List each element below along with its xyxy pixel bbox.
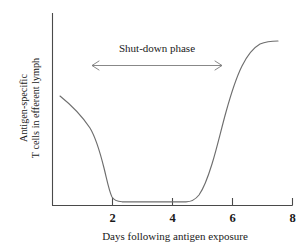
y-axis-label-line1: Antigen-specific — [18, 74, 29, 142]
x-axis-label: Days following antigen exposure — [102, 230, 248, 242]
chart-plot-area: 2 4 6 8 Days following antigen exposure … — [0, 0, 306, 247]
shutdown-phase-label: Shut-down phase — [119, 42, 195, 54]
x-tick-label-4: 4 — [169, 211, 176, 225]
x-tick-label-2: 2 — [109, 211, 115, 225]
x-tick-label-6: 6 — [229, 211, 235, 225]
chart-figure: 2 4 6 8 Days following antigen exposure … — [0, 0, 306, 247]
y-axis-label-line2: T cells in efferent lymph — [30, 58, 41, 158]
x-tick-label-8: 8 — [289, 211, 295, 225]
